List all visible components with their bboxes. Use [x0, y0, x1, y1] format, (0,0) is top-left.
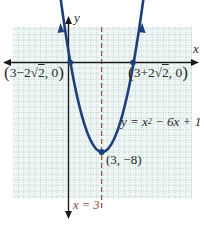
equation-rhs: − 6x + 1	[152, 114, 201, 129]
axis-of-symmetry-label: x = 3	[73, 199, 99, 212]
sqrt-icon: √	[31, 65, 38, 80]
paren-close: )	[58, 63, 64, 82]
y-axis-label: y	[74, 11, 80, 24]
root-left-pre: 3−2	[10, 65, 31, 80]
x-axis-right-arrow-icon	[191, 59, 199, 66]
y-axis-down-arrow-icon	[65, 211, 72, 219]
root-left-post: , 0	[45, 65, 59, 80]
y-axis-up-arrow-icon	[65, 16, 72, 24]
paren-open: (	[4, 63, 10, 82]
paren-open: (	[128, 63, 134, 82]
root-right-radicand: 2	[162, 65, 169, 80]
root-left-radicand: 2	[38, 65, 45, 80]
vertex-point	[99, 149, 105, 155]
root-left-label: (3−2√2, 0)	[4, 63, 64, 80]
x-axis-label: x	[193, 42, 199, 55]
grid	[13, 27, 192, 198]
equation-label: y = x2 − 6x + 1	[121, 115, 201, 128]
equation-exponent: 2	[148, 117, 152, 126]
vertex-label: (3, −8)	[106, 153, 142, 166]
paren-close: )	[182, 63, 188, 82]
sqrt-icon: √	[155, 65, 162, 80]
equation-lhs: y = x	[121, 114, 148, 129]
root-right-label: (3+2√2, 0)	[128, 63, 188, 80]
root-left-point	[68, 60, 74, 66]
root-right-post: , 0	[169, 65, 183, 80]
root-right-pre: 3+2	[134, 65, 155, 80]
